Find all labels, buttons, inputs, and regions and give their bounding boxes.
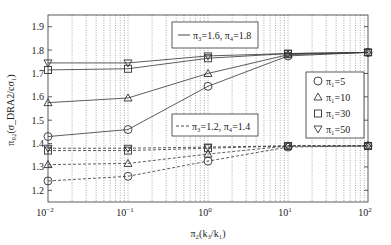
- legend-m1-label: π₁=5: [326, 76, 345, 87]
- svg-text:101: 101: [278, 206, 292, 218]
- svg-text:10−2: 10−2: [36, 206, 54, 218]
- svg-text:102: 102: [358, 206, 372, 218]
- legend-solid: π₃=1.6, π₄=1.8: [172, 22, 258, 48]
- svg-text:1.9: 1.9: [32, 21, 45, 32]
- svg-text:1.7: 1.7: [32, 68, 45, 79]
- x-axis-label: π₂(k₃/k₁): [191, 228, 226, 240]
- svg-text:1.8: 1.8: [32, 45, 45, 56]
- svg-text:1.4: 1.4: [32, 138, 45, 149]
- legend-dashed: π₃=1.2, π₄=1.4: [172, 114, 258, 136]
- svg-text:1.5: 1.5: [32, 115, 45, 126]
- svg-text:1.6: 1.6: [32, 91, 45, 102]
- y-axis-label: π₀₂(σ_DRA2/cσ₁): [5, 74, 17, 145]
- legend-m4-label: π₁=50: [326, 124, 350, 135]
- legend-m2-label: π₁=10: [326, 92, 350, 103]
- chart: 10−210−11001011021.21.31.41.51.61.71.81.…: [0, 0, 391, 245]
- svg-text:1.2: 1.2: [32, 185, 45, 196]
- svg-text:100: 100: [198, 206, 212, 218]
- legend-m3-label: π₁=30: [326, 108, 350, 119]
- svg-text:1.3: 1.3: [32, 161, 45, 172]
- legend-markers: π₁=5 π₁=10 π₁=30 π₁=50: [306, 72, 364, 138]
- svg-text:10−1: 10−1: [116, 206, 134, 218]
- legend-solid-label: π₃=1.6, π₄=1.8: [193, 30, 251, 41]
- legend-dashed-label: π₃=1.2, π₄=1.4: [192, 121, 250, 132]
